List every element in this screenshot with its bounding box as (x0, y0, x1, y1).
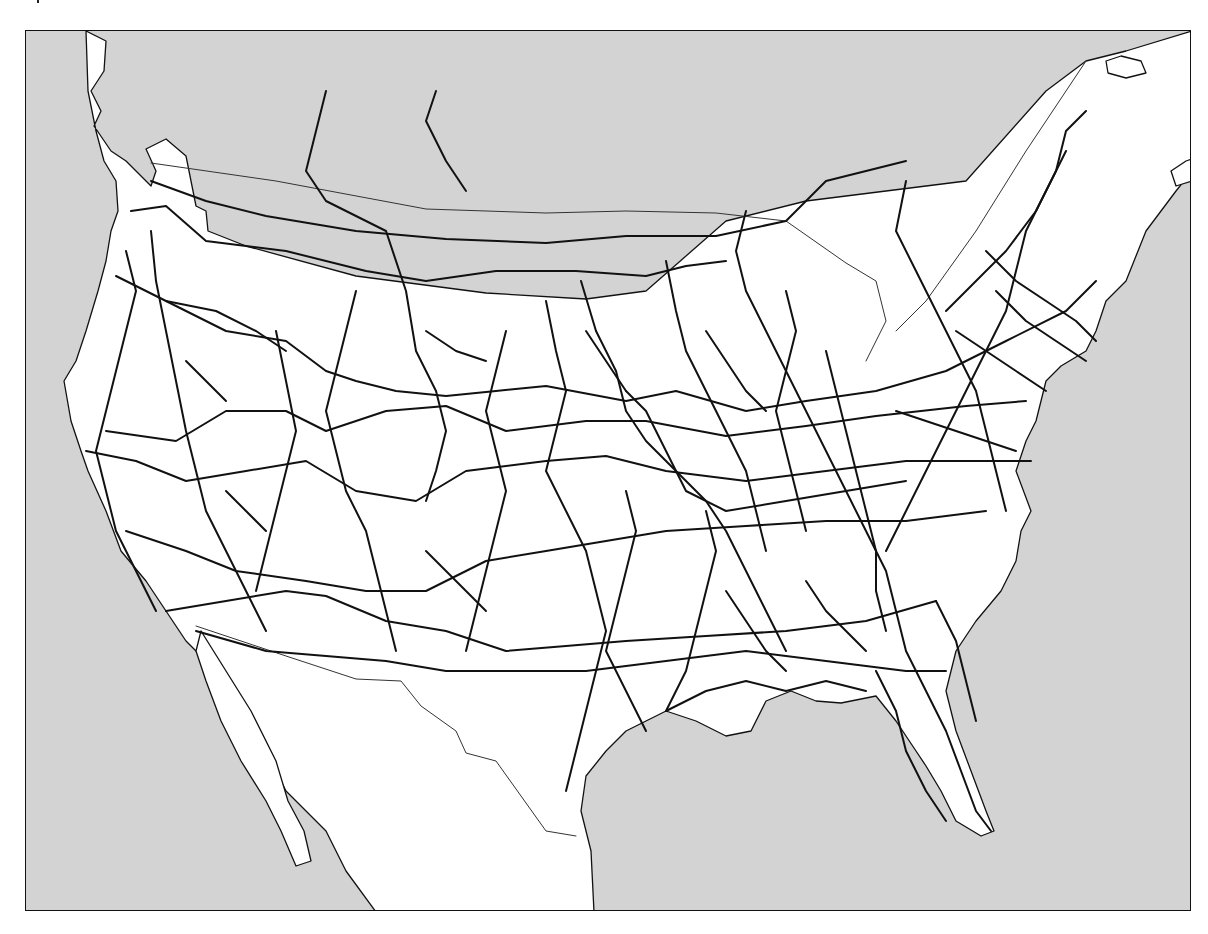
stray-mark (37, 0, 39, 3)
land-layer (64, 31, 1191, 911)
land-mass (64, 31, 1191, 911)
map-frame (25, 30, 1191, 911)
rail-network-map[interactable] (26, 31, 1191, 911)
rail-line (426, 91, 466, 191)
